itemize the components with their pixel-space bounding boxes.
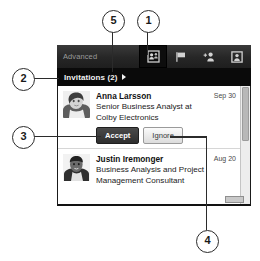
accept-button[interactable]: Accept	[96, 127, 139, 144]
invitations-icon	[147, 50, 160, 63]
list-item-text: Justin Iremonger Business Analysis and P…	[96, 154, 212, 186]
toolbar-tab-profile[interactable]	[223, 45, 251, 68]
invitations-header-label: Invitations (2)	[64, 73, 118, 82]
callout-3: 3	[12, 126, 35, 149]
invitation-name: Anna Larsson	[96, 91, 210, 102]
toolbar-tab-add-person[interactable]	[195, 45, 223, 68]
invitation-date: Aug 20	[212, 154, 240, 186]
add-person-icon	[203, 51, 216, 63]
invitation-date: Sep 30	[212, 91, 240, 144]
scrollbar-corner	[225, 196, 244, 203]
avatar-photo-anna	[63, 91, 90, 118]
toolbar-tab-invitations[interactable]	[139, 45, 167, 68]
callout-2: 2	[12, 68, 35, 91]
callout-5: 5	[102, 10, 125, 33]
invitations-panel: Advanced	[57, 45, 251, 206]
panel-toolbar: Advanced	[57, 45, 251, 68]
invitations-list-column: Anna Larsson Senior Business Analyst at …	[58, 86, 240, 204]
callout-4: 4	[196, 230, 219, 253]
invitation-headline: Business Analysis and Project Management…	[96, 165, 210, 186]
callout-1-leader	[147, 31, 149, 55]
profile-frame-icon	[231, 51, 243, 63]
invitation-headline: Senior Business Analyst at Colby Electro…	[96, 102, 210, 123]
invitation-name: Justin Iremonger	[96, 154, 210, 165]
callout-4-leader-vertical	[206, 136, 208, 230]
avatar-photo-justin	[63, 154, 90, 181]
toolbar-spacer	[97, 45, 139, 68]
flag-icon	[175, 51, 187, 63]
toolbar-tab-flag[interactable]	[167, 45, 195, 68]
callout-4-leader-horizontal	[170, 136, 207, 138]
callout-2-leader	[33, 78, 59, 80]
callout-1: 1	[137, 10, 160, 33]
callout-3-leader	[33, 136, 101, 138]
vertical-scrollbar[interactable]	[240, 86, 250, 204]
invitations-header-bar[interactable]: Invitations (2)	[57, 68, 251, 86]
advanced-label: Advanced	[57, 45, 97, 68]
invitations-list: Anna Larsson Senior Business Analyst at …	[57, 86, 251, 206]
scrollbar-thumb[interactable]	[242, 87, 249, 141]
triangle-right-icon	[122, 74, 126, 80]
callout-5-leader	[112, 31, 114, 72]
list-item[interactable]: Justin Iremonger Business Analysis and P…	[58, 148, 240, 190]
list-item[interactable]: Anna Larsson Senior Business Analyst at …	[58, 86, 240, 148]
